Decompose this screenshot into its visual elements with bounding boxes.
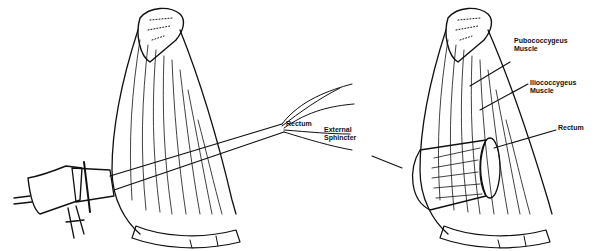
label-rectum-right: Rectum: [558, 124, 584, 132]
left-pelvic-floor: [14, 8, 354, 248]
label-external-sphincter: External Sphincter: [324, 126, 356, 142]
label-pubococcygeus: Pubococcygeus Muscle: [514, 37, 568, 53]
label-rectum-left: Rectum: [286, 120, 312, 128]
label-iliococcygeus: Iliococcygeus Muscle: [530, 79, 576, 95]
